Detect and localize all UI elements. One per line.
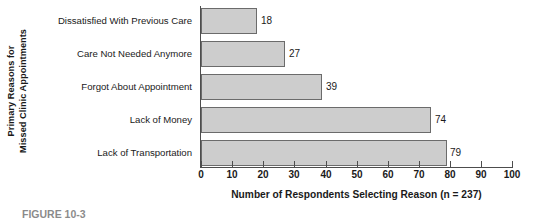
bar[interactable] xyxy=(201,74,322,100)
bar[interactable] xyxy=(201,107,431,133)
bar-value-label: 74 xyxy=(435,107,446,133)
bar-value-label: 79 xyxy=(450,140,461,166)
x-axis-tick xyxy=(357,161,358,167)
x-axis-title: Number of Respondents Selecting Reason (… xyxy=(201,189,512,200)
x-axis-tick xyxy=(201,161,202,167)
bar[interactable] xyxy=(201,140,447,166)
x-axis-tick xyxy=(419,161,420,167)
x-axis-tick xyxy=(481,161,482,167)
bar-value-label: 39 xyxy=(326,74,337,100)
x-axis-tick xyxy=(326,161,327,167)
category-label: Dissatisfied With Previous Care xyxy=(58,8,192,34)
x-axis-tick xyxy=(294,161,295,167)
bar[interactable] xyxy=(201,41,285,67)
x-axis-tick xyxy=(388,161,389,167)
figure-caption: FIGURE 10-3 xyxy=(22,208,522,219)
y-axis-line xyxy=(200,6,201,168)
x-axis-line xyxy=(200,167,513,168)
x-axis-tick-label: 100 xyxy=(492,169,532,180)
x-axis-tick xyxy=(263,161,264,167)
x-axis-tick xyxy=(450,161,451,167)
category-label: Forgot About Appointment xyxy=(81,74,192,100)
bar-value-label: 18 xyxy=(261,8,272,34)
plot-area: 18 27 39 74 79 xyxy=(201,8,512,166)
x-axis-tick xyxy=(512,161,513,167)
bar-value-label: 27 xyxy=(289,41,300,67)
category-label: Care Not Needed Anymore xyxy=(77,41,192,67)
category-label-list: Dissatisfied With Previous Care Care Not… xyxy=(24,8,196,166)
x-axis-tick xyxy=(232,161,233,167)
bar[interactable] xyxy=(201,8,257,34)
y-axis-title-line-1: Primary Reasons for xyxy=(6,6,18,176)
category-label: Lack of Transportation xyxy=(97,140,192,166)
category-label: Lack of Money xyxy=(130,107,192,133)
bar-chart-figure: Primary Reasons for Missed Clinic Appoin… xyxy=(0,0,536,219)
